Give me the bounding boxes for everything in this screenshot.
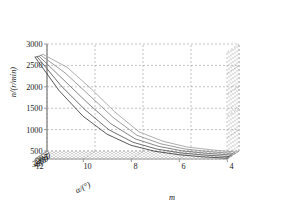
xtick-mark (131, 159, 132, 162)
xtick-label: 6 (181, 162, 185, 171)
data-series-alpha-20 (39, 56, 231, 155)
ztick-label: 1000 (26, 126, 42, 135)
data-series-alpha-10 (43, 54, 235, 152)
ytick-label: 0 (46, 152, 50, 161)
ztick-label: 1500 (26, 104, 42, 113)
mesh-rib (41, 54, 43, 55)
axis-title-y: α/(°) (74, 180, 92, 195)
axis-title-z: n/(r/min) (9, 67, 18, 97)
ztick-label: 2000 (26, 83, 42, 92)
mesh-rib (39, 55, 41, 56)
xtick-mark (179, 159, 180, 162)
ztick-label: 3000 (26, 40, 42, 49)
xtick-label: 10 (83, 162, 91, 171)
xtick-mark (227, 159, 228, 162)
chart-figure: 50010001500200025003000n/(r/min)1210864m… (0, 0, 298, 213)
xtick-label: 8 (133, 162, 137, 171)
chart-canvas: 50010001500200025003000n/(r/min)1210864m… (0, 0, 298, 213)
data-series-alpha-25 (37, 57, 229, 157)
axis-title-x: m (169, 193, 175, 202)
xtick-label: 4 (229, 162, 233, 171)
ztick-label: 2500 (26, 61, 42, 70)
